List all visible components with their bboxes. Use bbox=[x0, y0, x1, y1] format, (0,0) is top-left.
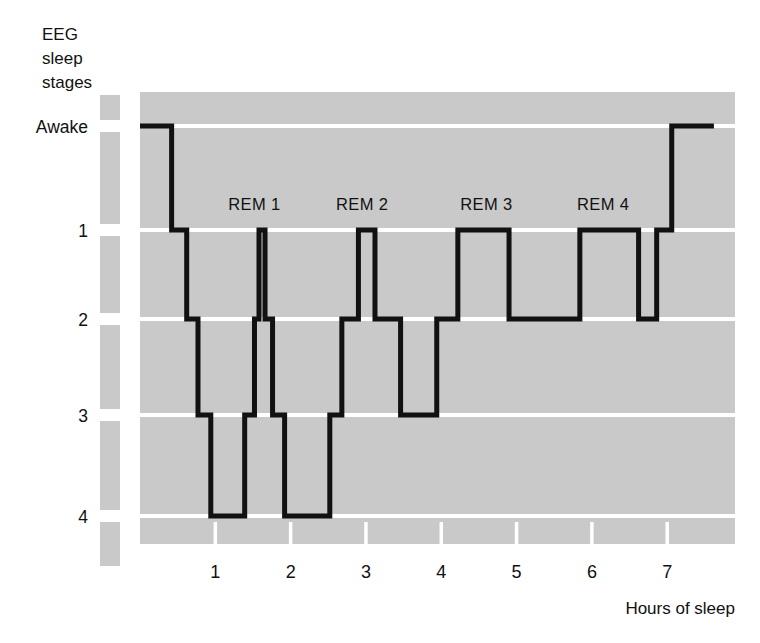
x-tick-label-7: 7 bbox=[662, 562, 672, 582]
x-tick-label-5: 5 bbox=[512, 562, 522, 582]
y-axis-title-line-1: EEG bbox=[42, 25, 78, 44]
x-tick-label-6: 6 bbox=[587, 562, 597, 582]
x-tick-label-4: 4 bbox=[436, 562, 446, 582]
x-tick-label-2: 2 bbox=[286, 562, 296, 582]
x-tick-label-1: 1 bbox=[210, 562, 220, 582]
y-axis-title-line-2: sleep bbox=[42, 49, 83, 68]
rem-label-2: REM 2 bbox=[336, 195, 388, 213]
rem-label-4: REM 4 bbox=[577, 195, 629, 213]
y-tick-label-awake: Awake bbox=[36, 117, 88, 137]
y-tick-label-2: 2 bbox=[78, 310, 88, 330]
x-axis-title: Hours of sleep bbox=[625, 599, 735, 618]
x-tick-label-3: 3 bbox=[361, 562, 371, 582]
y-tick-label-1: 1 bbox=[78, 221, 88, 241]
y-tick-label-3: 3 bbox=[78, 406, 88, 426]
rem-label-1: REM 1 bbox=[228, 195, 280, 213]
y-axis-title-line-3: stages bbox=[42, 73, 92, 92]
hypnogram-figure: EEG sleep stages Awake 1 2 3 4 REM 1REM … bbox=[0, 0, 760, 643]
stage-scale-column bbox=[100, 95, 120, 566]
rem-label-3: REM 3 bbox=[460, 195, 512, 213]
y-tick-label-4: 4 bbox=[78, 507, 88, 527]
x-axis-tick-labels: 1234567 bbox=[210, 562, 672, 582]
